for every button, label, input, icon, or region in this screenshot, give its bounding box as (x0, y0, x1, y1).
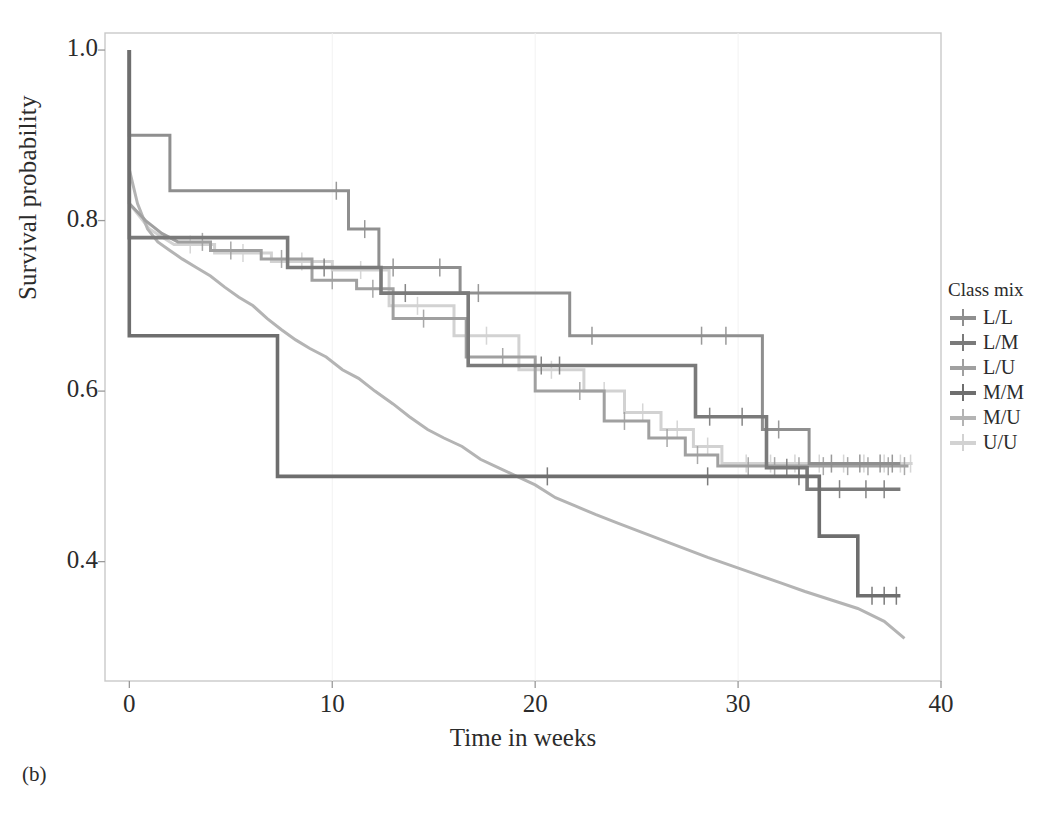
legend-item-m-u[interactable]: M/U (948, 405, 1052, 430)
x-tick-label: 0 (89, 690, 169, 718)
survival-chart-figure: 1.00.80.60.4 010203040 Survival probabil… (0, 0, 1054, 817)
x-tick-label: 10 (292, 690, 372, 718)
x-tick-label: 40 (901, 690, 981, 718)
legend-title: Class mix (948, 279, 1052, 301)
y-axis-title: Survival probability (14, 40, 42, 300)
legend-swatch-icon (948, 355, 978, 380)
legend-item-l-l[interactable]: L/L (948, 305, 1052, 330)
legend: Class mix L/LL/ML/UM/MM/UU/U (948, 279, 1052, 455)
figure-caption: (b) (22, 762, 47, 787)
legend-swatch-icon (948, 330, 978, 355)
legend-items: L/LL/ML/UM/MM/UU/U (948, 305, 1052, 455)
legend-item-label: L/L (983, 306, 1013, 329)
x-tick-label: 20 (495, 690, 575, 718)
legend-item-u-u[interactable]: U/U (948, 430, 1052, 455)
legend-item-label: U/U (983, 431, 1017, 454)
x-tick-label: 30 (698, 690, 778, 718)
legend-swatch-icon (948, 380, 978, 405)
legend-swatch-icon (948, 405, 978, 430)
y-tick-label: 0.4 (28, 547, 98, 572)
legend-item-l-u[interactable]: L/U (948, 355, 1052, 380)
x-axis-title: Time in weeks (105, 724, 941, 752)
legend-item-label: M/M (983, 381, 1024, 404)
legend-item-l-m[interactable]: L/M (948, 330, 1052, 355)
figure-page: 1.00.80.60.4 010203040 Survival probabil… (0, 0, 1054, 817)
legend-swatch-icon (948, 430, 978, 455)
legend-item-label: L/U (983, 356, 1015, 379)
legend-item-label: L/M (983, 331, 1019, 354)
y-tick-label: 0.6 (28, 376, 98, 401)
legend-item-label: M/U (983, 406, 1021, 429)
legend-swatch-icon (948, 305, 978, 330)
legend-item-m-m[interactable]: M/M (948, 380, 1052, 405)
